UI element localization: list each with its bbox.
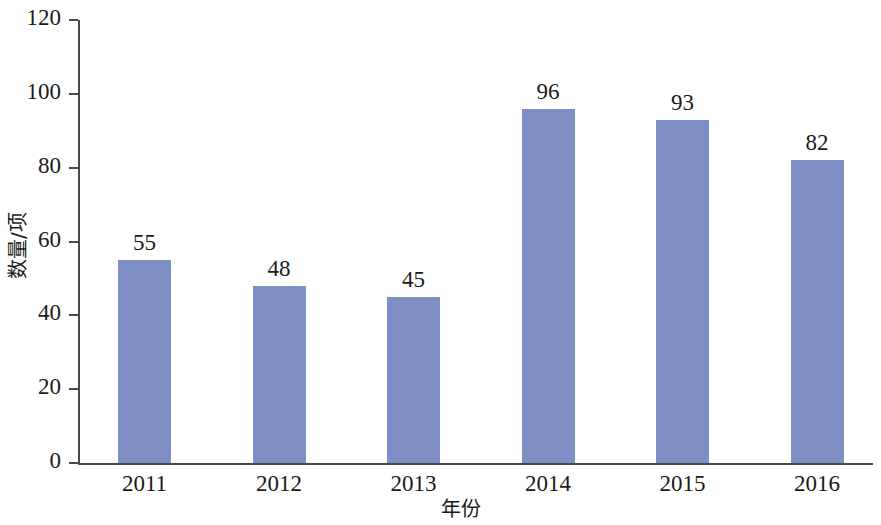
- bar-value-label: 96: [537, 80, 560, 104]
- y-axis-tick-mark: 40: [69, 314, 78, 316]
- x-axis-line: [78, 463, 873, 465]
- y-axis-tick-label: 0: [50, 449, 62, 473]
- y-axis-tick-label: 60: [38, 228, 61, 252]
- y-axis-tick-label: 100: [27, 80, 62, 104]
- bar-value-label: 55: [133, 231, 156, 255]
- bar: 932015: [656, 120, 709, 463]
- bar-chart-figure: 数量/项 020406080100120 5520114820124520139…: [0, 0, 881, 525]
- bar-value-label: 45: [402, 268, 425, 292]
- bar-value-label: 48: [268, 257, 291, 281]
- y-axis-tick-label: 120: [27, 6, 62, 30]
- bar: 822016: [791, 160, 844, 463]
- bar: 482012: [253, 286, 306, 463]
- y-axis-title-text: 数量/项: [2, 212, 31, 279]
- bar: 452013: [387, 297, 440, 463]
- y-axis-tick-mark: 0: [69, 462, 78, 464]
- plot-area: 020406080100120 552011482012452013962014…: [78, 20, 873, 463]
- y-axis-tick-mark: 20: [69, 388, 78, 390]
- bar-value-label: 93: [671, 91, 694, 115]
- x-axis-title-text: 年份: [441, 493, 481, 522]
- y-axis-title: 数量/项: [2, 180, 30, 310]
- y-axis-line: [78, 20, 80, 463]
- y-axis-tick-label: 40: [38, 301, 61, 325]
- x-axis-title: 年份: [0, 493, 881, 522]
- bar: 962014: [522, 109, 575, 463]
- y-axis-tick-mark: 100: [69, 93, 78, 95]
- y-axis-tick-label: 80: [38, 154, 61, 178]
- y-axis-tick-mark: 80: [69, 167, 78, 169]
- y-axis-tick-label: 20: [38, 375, 61, 399]
- y-axis-tick-mark: 120: [69, 19, 78, 21]
- y-axis-tick-mark: 60: [69, 241, 78, 243]
- bar: 552011: [118, 260, 171, 463]
- bar-value-label: 82: [806, 131, 829, 155]
